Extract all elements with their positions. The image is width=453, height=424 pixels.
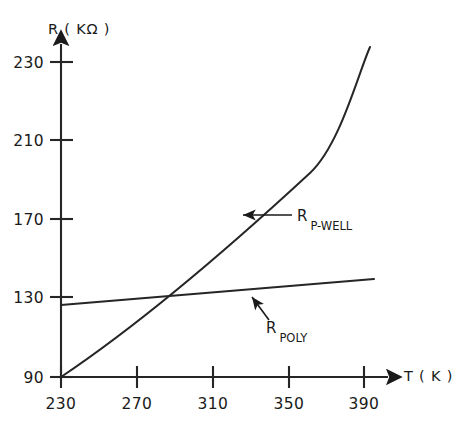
p-well-label-main: R	[297, 207, 307, 225]
p-well-label-sub: P-WELL	[310, 219, 352, 233]
resistance-vs-temperature-chart: 230 210 170 130 90 R ( KΩ ) 230 270 310	[0, 0, 453, 424]
x-tick-label-310: 310	[198, 395, 229, 413]
y-tick-label-170: 170	[13, 211, 44, 229]
poly-label-main: R	[266, 319, 276, 337]
y-tick-label-210: 210	[13, 132, 44, 150]
y-tick-label-230: 230	[13, 54, 44, 72]
y-axis-title: R ( KΩ )	[48, 21, 110, 37]
x-tick-label-230: 230	[46, 395, 77, 413]
chart-background	[0, 0, 453, 424]
x-tick-label-390: 390	[349, 395, 380, 413]
chart-canvas: 230 210 170 130 90 R ( KΩ ) 230 270 310	[0, 0, 453, 424]
x-tick-label-270: 270	[122, 395, 153, 413]
x-tick-label-350: 350	[274, 395, 305, 413]
y-tick-label-90: 90	[23, 369, 44, 387]
poly-label-sub: POLY	[279, 331, 308, 345]
x-axis-title: T ( K )	[403, 368, 453, 384]
y-tick-label-130: 130	[13, 289, 44, 307]
